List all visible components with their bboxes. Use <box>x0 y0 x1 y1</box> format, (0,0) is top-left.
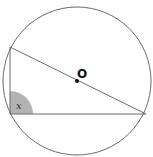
angle-label: x <box>16 100 22 111</box>
geometry-figure: O x <box>0 0 153 157</box>
center-label: O <box>77 67 87 81</box>
diagram-canvas: O x <box>0 0 153 157</box>
